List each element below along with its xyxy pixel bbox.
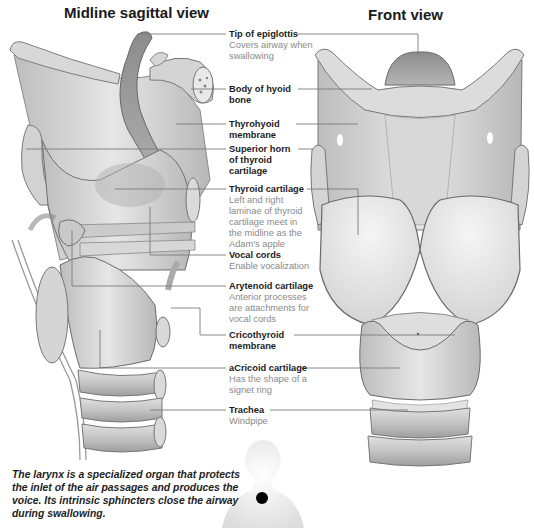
label-name: Body of hyoid bone <box>229 84 299 106</box>
larynx-location-dot <box>256 492 268 504</box>
label-arytenoid-cartilage: Arytenoid cartilage Anterior processes a… <box>229 281 321 325</box>
label-name: Thyrohyoid membrane <box>229 119 299 141</box>
label-name: Tip of epiglottis <box>229 29 337 40</box>
label-name: Cricothyroid membrane <box>229 330 299 352</box>
sagittal-view-drawing <box>10 32 214 460</box>
sagittal-view-title: Midline sagittal view <box>64 4 209 21</box>
label-name: Vocal cords <box>229 250 337 261</box>
label-desc: Has the shape of a signet ring <box>229 374 315 396</box>
label-cricothyroid-membrane: Cricothyroid membrane <box>229 330 299 352</box>
label-desc: Covers airway when swallowing <box>229 40 317 62</box>
label-superior-horn: Superior horn of thyroid cartilage <box>229 144 301 177</box>
label-thyrohyoid-membrane: Thyrohyoid membrane <box>229 119 299 141</box>
front-view-title: Front view <box>368 6 443 23</box>
label-thyroid-cartilage: Thyroid cartilage Left and right laminae… <box>229 184 311 250</box>
label-name: Thyroid cartilage <box>229 184 311 195</box>
label-name: aCricoid cartilage <box>229 363 315 374</box>
label-trachea: Trachea Windpipe <box>229 405 337 427</box>
label-name: Arytenoid cartilage <box>229 281 321 292</box>
label-vocal-cords: Vocal cords Enable vocalization <box>229 250 337 272</box>
label-desc: Anterior processes are attachments for v… <box>229 292 321 325</box>
label-desc: Windpipe <box>229 416 337 427</box>
caption-text: The larynx is a specialized organ that p… <box>12 468 252 520</box>
label-name: Trachea <box>229 405 337 416</box>
label-name: Superior horn of thyroid cartilage <box>229 144 301 177</box>
label-tip-of-epiglottis: Tip of epiglottis Covers airway when swa… <box>229 29 337 62</box>
label-desc: Enable vocalization <box>229 261 337 272</box>
label-body-of-hyoid-bone: Body of hyoid bone <box>229 84 299 106</box>
front-view-drawing <box>311 49 529 466</box>
label-desc: Left and right laminae of thyroid cartil… <box>229 195 311 250</box>
label-cricoid-cartilage: aCricoid cartilage Has the shape of a si… <box>229 363 315 396</box>
